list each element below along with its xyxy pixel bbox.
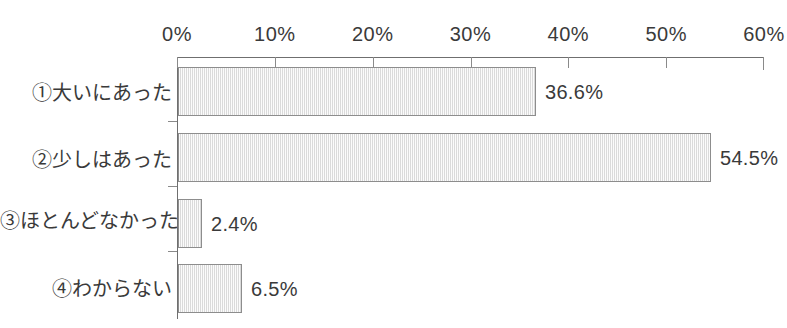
category-label-3: ③ほとんどなかった	[0, 209, 172, 233]
x-tick-mark-40	[568, 57, 569, 68]
value-label-2: 54.5%	[720, 147, 778, 169]
y-tick-mark-3	[168, 251, 177, 252]
x-axis-tick-label-10: 10%	[254, 23, 296, 45]
y-tick-mark-2	[168, 186, 177, 187]
x-tick-mark-50	[666, 57, 667, 68]
x-axis-tick-label-40: 40%	[548, 23, 590, 45]
value-label-4: 6.5%	[251, 278, 298, 300]
x-axis-tick-label-50: 50%	[645, 23, 687, 45]
y-tick-mark-1	[168, 121, 177, 122]
value-label-3: 2.4%	[211, 213, 258, 235]
category-label-2: ②少しはあった	[0, 148, 172, 172]
x-axis-tick-label-60: 60%	[743, 23, 785, 45]
value-label-1: 36.6%	[545, 81, 603, 103]
bar-3	[178, 199, 202, 248]
category-label-4: ④わからない	[0, 277, 172, 301]
x-axis-tick-label-20: 20%	[352, 23, 394, 45]
bar-1	[178, 67, 536, 116]
x-tick-mark-60	[763, 57, 764, 70]
bar-2	[178, 133, 711, 182]
x-axis-tick-label-0: 0%	[162, 23, 192, 45]
category-label-1: ①大いにあった	[0, 81, 172, 105]
horizontal-bar-chart: 0% 10% 20% 30% 40% 50% 60% ①大いにあった ②少しはあ…	[0, 0, 787, 328]
plot-area: 36.6% 54.5% 2.4% 6.5%	[177, 57, 764, 319]
bar-4	[178, 264, 242, 313]
x-axis-tick-label-30: 30%	[450, 23, 492, 45]
